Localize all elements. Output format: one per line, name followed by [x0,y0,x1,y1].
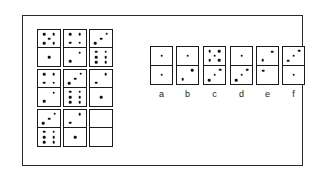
pip-dot [43,100,46,103]
pip-dot [105,32,108,35]
pip-dot [95,81,98,84]
pip-dot [213,54,216,57]
pip-dot [298,50,301,53]
option-label-c[interactable]: c [203,89,226,100]
pip-dot [262,69,265,72]
pip-dot [79,90,82,93]
domino-option-f[interactable] [282,46,305,85]
domino-half-bottom [90,88,112,106]
pip-dot [240,54,243,57]
domino-option-b[interactable] [176,46,199,85]
domino-option-e[interactable] [256,46,279,85]
pip-dot [53,141,56,144]
domino-half-bottom [38,128,60,146]
domino-half-bottom [257,66,278,85]
domino-half-top [204,47,225,66]
domino-half-top [90,110,112,128]
pip-dot [218,50,221,53]
domino-half-bottom [38,48,60,66]
option-label-d[interactable]: d [230,89,253,100]
pip-dot [208,79,211,82]
pip-dot [209,50,212,53]
pip-dot [79,113,82,116]
domino-half-top [38,110,60,128]
pip-dot [160,54,163,57]
pip-dot [53,42,56,45]
domino-half-top [90,30,112,48]
pip-dot [240,73,243,76]
domino-half-bottom [90,128,112,146]
pip-dot [53,136,56,139]
pip-dot [79,51,82,54]
domino-half-top [64,30,86,48]
pip-dot [43,81,46,84]
domino-matrix-r2c1 [37,69,61,107]
pip-dot [53,81,56,84]
domino-matrix-r2c2 [63,69,87,107]
pip-dot [42,122,45,125]
pip-dot [262,59,265,62]
pip-dot [79,33,82,36]
pip-dot [79,96,82,99]
domino-half-bottom [283,66,304,85]
pip-dot [79,41,82,44]
pip-dot [79,72,82,75]
domino-answer-slot[interactable] [89,109,113,147]
pip-dot [105,56,108,59]
pip-dot [213,73,216,76]
pip-dot [100,96,103,99]
domino-half-bottom [64,48,86,66]
pip-dot [69,90,72,93]
pip-dot [53,73,56,76]
pip-dot [53,91,56,94]
domino-half-bottom [151,66,172,85]
domino-half-top [38,70,60,88]
domino-option-a[interactable] [150,46,173,85]
pip-dot [292,73,295,76]
pip-dot [186,54,189,57]
domino-half-bottom [90,48,112,66]
domino-half-bottom [38,88,60,106]
pip-dot [48,37,51,40]
pip-dot [191,69,194,72]
pip-dot [287,59,290,62]
option-label-a[interactable]: a [150,89,173,100]
pip-dot [246,68,249,71]
pip-dot [94,42,97,45]
pip-dot [69,121,72,124]
pip-dot [292,54,295,57]
domino-option-c[interactable] [203,46,226,85]
pip-dot [95,50,98,53]
pip-dot [79,101,82,104]
domino-half-bottom [64,88,86,106]
domino-half-bottom [231,66,252,85]
domino-half-bottom [64,128,86,146]
pip-dot [74,136,77,139]
option-label-b[interactable]: b [176,89,199,100]
domino-matrix-r1c3 [89,29,113,67]
option-label-e[interactable]: e [256,89,279,100]
domino-matrix-r2c3 [89,69,113,107]
domino-half-top [283,47,304,66]
pip-dot [209,59,212,62]
domino-half-top [90,70,112,88]
domino-half-top [231,47,252,66]
pip-dot [160,73,163,76]
pip-dot [271,50,274,53]
pip-dot [69,101,72,104]
pip-dot [53,112,56,115]
domino-half-top [257,47,278,66]
domino-matrix-r3c1 [37,109,61,147]
domino-matrix-r1c2 [63,29,87,67]
pip-dot [48,56,51,59]
pip-dot [105,73,108,76]
pip-dot [74,77,77,80]
pip-dot [218,59,221,62]
domino-option-d[interactable] [230,46,253,85]
pip-dot [105,50,108,53]
pip-dot [43,42,46,45]
option-label-f[interactable]: f [282,89,305,100]
pip-dot [95,61,98,64]
domino-half-top [151,47,172,66]
domino-matrix-r1c1 [37,29,61,67]
